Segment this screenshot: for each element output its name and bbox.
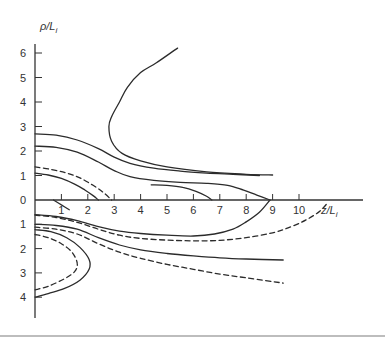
chart-canvas: 01234561234 12345678910 ρ/Li z/Li — [0, 0, 385, 338]
x-tick-label: 2 — [85, 204, 91, 216]
bottom-divider — [0, 335, 385, 337]
y-tick-label: 5 — [20, 72, 26, 84]
y-tick-label: 3 — [20, 267, 26, 279]
upper-solid-A-line — [35, 134, 259, 176]
x-tick-label: 7 — [217, 204, 223, 216]
y-ticks: 01234561234 — [20, 47, 42, 303]
upper-solid-C-line — [35, 173, 98, 200]
y-axis-label: ρ/Li — [39, 20, 57, 35]
y-tick-label: 6 — [20, 47, 26, 59]
x-tick-label: 3 — [111, 204, 117, 216]
y-tick-label: 4 — [20, 96, 26, 108]
x-tick-label: 1 — [58, 204, 64, 216]
lower-dashed-loop-line — [35, 235, 77, 290]
lower-solid-G-line — [35, 224, 283, 260]
x-tick-label: 9 — [270, 204, 276, 216]
y-tick-label: 0 — [20, 194, 26, 206]
x-tick-label: 8 — [243, 204, 249, 216]
x-tick-label: 5 — [164, 204, 170, 216]
upper-C-curve-line — [109, 48, 273, 175]
upper-solid-D-line — [151, 185, 212, 200]
x-tick-label: 4 — [138, 204, 144, 216]
x-axis-label: z/Li — [320, 204, 338, 219]
axes-layer: 01234561234 12345678910 — [20, 44, 363, 318]
y-tick-label: 2 — [20, 243, 26, 255]
y-tick-label: 3 — [20, 121, 26, 133]
y-tick-label: 1 — [20, 170, 26, 182]
y-tick-label: 4 — [20, 291, 26, 303]
curves-layer — [35, 48, 328, 297]
lower-solid-loop-line — [35, 230, 90, 298]
y-tick-label: 1 — [20, 218, 26, 230]
x-tick-label: 10 — [293, 204, 305, 216]
y-tick-label: 2 — [20, 145, 26, 157]
lower-dashed-H-line — [35, 227, 283, 283]
lower-solid-E-line — [35, 200, 270, 236]
x-tick-label: 6 — [190, 204, 196, 216]
